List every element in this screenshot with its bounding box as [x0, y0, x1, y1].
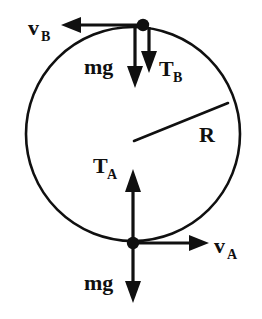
velocity-top-label: v B: [28, 15, 50, 44]
point-a-node: [127, 237, 139, 249]
velocity-bottom-label-base: v: [214, 233, 225, 258]
weight-bottom-label: mg: [84, 270, 113, 295]
tension-top-label: T B: [159, 56, 182, 85]
physics-diagram-canvas: R v B mg T B: [0, 0, 262, 319]
tension-top-label-sub: B: [173, 70, 182, 85]
physics-diagram-svg: R v B mg T B: [0, 0, 262, 319]
tension-bottom-label-base: T: [93, 153, 108, 178]
velocity-top-arrow-head: [61, 17, 81, 33]
tension-bottom-label: T A: [93, 153, 118, 182]
weight-top-arrow-head: [127, 66, 143, 88]
velocity-bottom-arrow-head: [189, 235, 209, 251]
velocity-bottom-label: v A: [214, 233, 238, 262]
radius-label: R: [199, 122, 216, 147]
tension-bottom-label-sub: A: [107, 167, 118, 182]
point-b-node: [137, 19, 149, 31]
weight-bottom-arrow-head: [125, 281, 141, 303]
velocity-bottom-label-sub: A: [227, 247, 238, 262]
weight-top-label: mg: [84, 54, 113, 79]
tension-top-label-base: T: [159, 56, 174, 81]
velocity-top-label-base: v: [28, 15, 39, 40]
tension-bottom-arrow-head: [125, 169, 141, 192]
velocity-top-label-sub: B: [41, 29, 50, 44]
tension-top-arrow-head: [141, 51, 157, 73]
